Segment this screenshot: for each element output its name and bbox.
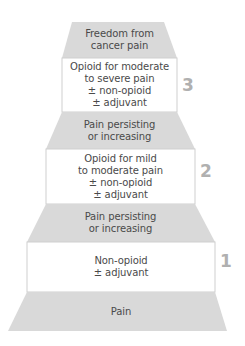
step-2-line: to moderate pain [78,165,163,177]
step-1-line: ± adjuvant [94,267,148,279]
step-1-label: Non-opioid ± adjuvant [27,242,215,292]
step-3-line: ± adjuvant [92,97,146,109]
transition-upper-line: Pain persisting [84,119,156,131]
step-2-number: 2 [200,163,212,180]
transition-upper-label: Pain persisting or increasing [62,112,177,149]
step-2-label: Opioid for mild to moderate pain ± non-o… [46,149,195,204]
step-3-line: ± non-opioid [88,85,151,97]
step-2-line: Opioid for mild [84,153,157,165]
base-label: Pain [27,292,215,331]
step-3-number: 3 [182,77,194,94]
top-label-line: cancer pain [91,40,148,52]
step-2-line: ± adjuvant [93,189,147,201]
analgesic-ladder-diagram: Freedom from cancer pain Opioid for mode… [0,0,245,346]
base-line: Pain [111,306,131,318]
step-3-label: Opioid for moderate to severe pain ± non… [62,58,177,112]
transition-lower-line: or increasing [89,223,153,235]
transition-upper-line: or increasing [88,131,152,143]
transition-lower-label: Pain persisting or increasing [46,204,195,242]
top-label: Freedom from cancer pain [62,22,177,58]
step-2-line: ± non-opioid [89,177,152,189]
step-3-line: to severe pain [84,73,154,85]
step-3-line: Opioid for moderate [70,61,169,73]
step-1-number: 1 [220,253,232,270]
transition-lower-line: Pain persisting [85,211,157,223]
top-label-line: Freedom from [85,28,154,40]
step-1-line: Non-opioid [94,255,147,267]
